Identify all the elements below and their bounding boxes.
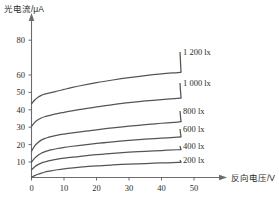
y-tick-label-80: 80 (17, 35, 26, 45)
leader-1200lx (180, 52, 181, 72)
curve-400lx (32, 150, 182, 170)
series-label-800lx: 800 lx (183, 106, 205, 116)
y-tick-label-40: 40 (17, 105, 26, 115)
x-tick-label-50: 50 (190, 183, 199, 193)
y-tick-label-30: 30 (17, 122, 26, 132)
leader-600lx (180, 129, 181, 137)
curve-200lx (32, 162, 182, 177)
series-label-200lx: 200 lx (183, 155, 205, 165)
series-label-1000lx: 1 000 lx (183, 78, 212, 88)
y-axis-tick-labels: 10 20 30 40 50 60 80 (17, 35, 26, 167)
leader-1000lx (180, 83, 181, 98)
y-axis-label: 光电流/μA (4, 4, 44, 14)
curve-800lx (32, 122, 182, 151)
series-label-1200lx: 1 200 lx (183, 47, 212, 57)
y-tick-label-20: 20 (17, 140, 26, 150)
x-tick-label-30: 30 (125, 183, 134, 193)
series-label-600lx: 600 lx (183, 124, 205, 134)
x-tick-label-0: 0 (29, 183, 33, 193)
x-tick-label-20: 20 (92, 183, 101, 193)
y-tick-label-10: 10 (17, 157, 26, 167)
y-tick-label-50: 50 (17, 87, 26, 97)
series-labels: 1 200 lx 1 000 lx 800 lx 600 lx 400 lx 2… (183, 47, 212, 165)
series-label-400lx: 400 lx (183, 141, 205, 151)
y-tick-label-60: 60 (17, 70, 26, 80)
curve-600lx (32, 137, 182, 162)
x-axis-label: 反向电压/V (231, 173, 275, 183)
photocurrent-voltage-chart: 光电流/μA 反向电压/V 10 20 30 40 (0, 0, 279, 205)
x-axis-tick-labels: 0 10 20 30 40 50 (29, 183, 198, 193)
leader-800lx (180, 111, 181, 122)
curve-group (32, 52, 182, 177)
curve-1000lx (32, 98, 182, 126)
x-tick-label-10: 10 (60, 183, 69, 193)
x-tick-label-40: 40 (157, 183, 166, 193)
y-axis (29, 13, 35, 178)
